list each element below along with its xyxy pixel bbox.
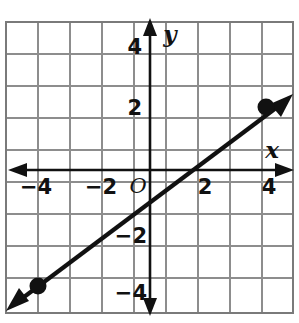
plotted-point-neg4-neg4: [30, 278, 47, 295]
origin-label: O: [129, 174, 146, 198]
x-tick-label-pos2: 2: [198, 175, 213, 199]
graph-svg: −4 −2 2 4 4 2 −2 −4 O x y: [0, 0, 299, 323]
x-tick-label-neg2: −2: [85, 175, 117, 199]
x-tick-label-pos4: 4: [262, 175, 277, 199]
y-tick-label-pos2: 2: [127, 96, 142, 120]
coordinate-graph-figure: −4 −2 2 4 4 2 −2 −4 O x y: [0, 0, 299, 323]
x-tick-label-neg4: −4: [20, 175, 52, 199]
y-tick-label-neg2: −2: [115, 224, 147, 248]
x-axis-name-label: x: [264, 136, 279, 163]
y-tick-label-pos4: 4: [127, 35, 142, 59]
plotted-point-4-2: [258, 99, 275, 116]
y-tick-label-neg4: −4: [115, 281, 147, 305]
y-axis-name-label: y: [162, 20, 178, 47]
